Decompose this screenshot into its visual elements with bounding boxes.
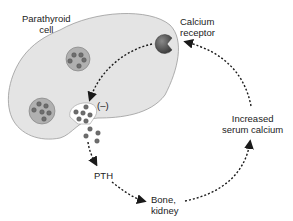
calcium-receptor-label: Calcium receptor <box>180 16 215 38</box>
arrow-cell-to-pth <box>88 142 96 164</box>
released-pth-granules <box>84 127 101 144</box>
parathyroid-cell-label: Parathyroid cell <box>22 13 71 35</box>
inhibition-label: (–) <box>97 100 109 111</box>
receptor-label-line2: receptor <box>180 27 215 38</box>
serum-calcium-label: Increased serum calcium <box>222 113 283 135</box>
cell-label-line2: cell <box>22 24 71 35</box>
result-label-line1: Increased <box>222 113 283 124</box>
arrow-serum-calcium-to-receptor <box>186 42 251 106</box>
pth-label: PTH <box>94 170 113 181</box>
arrow-bone-kidney-to-serum-calcium <box>185 142 250 201</box>
receptor-label-line1: Calcium <box>180 16 215 27</box>
secretory-vesicle-upper <box>66 47 90 71</box>
target-label-line1: Bone, <box>151 194 178 205</box>
bone-kidney-label: Bone, kidney <box>151 194 178 216</box>
secretory-vesicle-lower <box>29 98 55 124</box>
diagram: Parathyroid cell Calcium receptor (–) PT… <box>0 0 293 221</box>
result-label-line2: serum calcium <box>222 124 283 135</box>
cell-label-line1: Parathyroid <box>22 13 71 24</box>
arrow-pth-to-bone-kidney <box>112 182 144 201</box>
target-label-line2: kidney <box>151 205 178 216</box>
